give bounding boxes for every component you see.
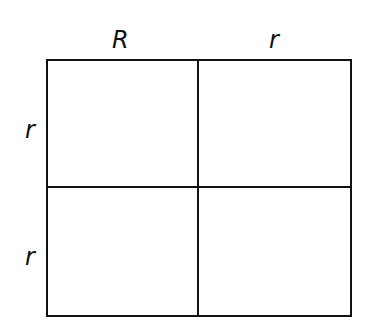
cell-bottom-left [48, 188, 199, 315]
left-allele-1: r [25, 118, 35, 142]
cell-bottom-right [199, 188, 350, 315]
left-allele-2: r [25, 245, 35, 269]
top-allele-2: r [269, 28, 279, 52]
top-allele-1: R [112, 28, 129, 52]
cell-top-left [48, 61, 199, 188]
cell-top-right [199, 61, 350, 188]
punnett-grid [46, 59, 352, 317]
